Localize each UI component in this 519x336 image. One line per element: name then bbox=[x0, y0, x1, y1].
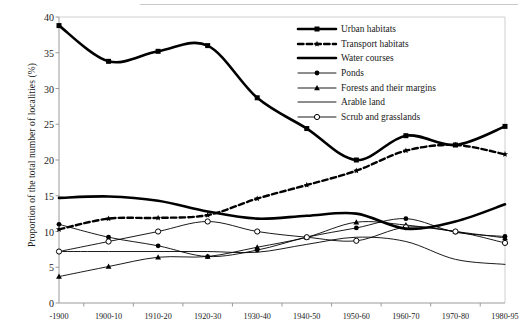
series-urban-habitats-marker bbox=[403, 133, 408, 138]
legend-transport-habitats-marker bbox=[314, 41, 320, 47]
legend-label-forests-and-their-margins: Forests and their margins bbox=[338, 83, 436, 93]
series-line-water-courses bbox=[59, 196, 505, 228]
y-tick-25: 25 bbox=[32, 119, 54, 130]
series-line-arable-land bbox=[59, 237, 505, 264]
y-tick-35: 35 bbox=[32, 47, 54, 58]
series-ponds-marker bbox=[354, 226, 359, 231]
legend-label-arable-land: Arable land bbox=[338, 97, 385, 107]
series-scrub-and-grasslands-marker bbox=[255, 229, 260, 234]
series-urban-habitats bbox=[57, 23, 508, 162]
x-axis-tick-labels: -19001900-101910-201920-301930-401940-50… bbox=[0, 312, 518, 332]
y-axis-tick-labels: 0510152025303540 bbox=[30, 0, 54, 336]
y-tick-20: 20 bbox=[32, 155, 54, 166]
series-scrub-and-grasslands-marker bbox=[304, 235, 309, 240]
series-scrub-and-grasslands-marker bbox=[453, 229, 458, 234]
x-tick-1960-70: 1960-70 bbox=[392, 312, 419, 321]
legend-key-arable-land bbox=[296, 96, 338, 108]
legend-label-water-courses: Water courses bbox=[338, 53, 394, 63]
legend-key-scrub-and-grasslands bbox=[296, 111, 338, 123]
x-tick-1930-40: 1930-40 bbox=[244, 312, 271, 321]
series-urban-habitats-marker bbox=[304, 126, 309, 131]
legend-item-ponds[interactable]: Ponds bbox=[296, 66, 436, 81]
series-urban-habitats-marker bbox=[106, 59, 111, 64]
series-transport-habitats-marker bbox=[155, 215, 161, 221]
y-tick-10: 10 bbox=[32, 226, 54, 237]
x-tick-1910-20: 1910-20 bbox=[144, 312, 171, 321]
legend-item-arable-land[interactable]: Arable land bbox=[296, 95, 436, 110]
y-tick-15: 15 bbox=[32, 190, 54, 201]
series-water-courses bbox=[59, 196, 505, 228]
top-divider-rule bbox=[140, 4, 518, 5]
series-scrub-and-grasslands-marker bbox=[502, 240, 507, 245]
series-scrub-and-grasslands-marker bbox=[205, 219, 210, 224]
series-ponds-marker bbox=[156, 243, 161, 248]
series-urban-habitats-marker bbox=[205, 43, 210, 48]
series-urban-habitats-marker bbox=[156, 49, 161, 54]
x-tick-1970-80: 1970-80 bbox=[442, 312, 469, 321]
legend-ponds-marker bbox=[315, 71, 320, 76]
legend-key-urban-habitats bbox=[296, 23, 338, 35]
legend-item-water-courses[interactable]: Water courses bbox=[296, 51, 436, 66]
legend-label-ponds: Ponds bbox=[338, 68, 364, 78]
legend-item-urban-habitats[interactable]: Urban habitats bbox=[296, 22, 436, 37]
series-ponds bbox=[57, 216, 508, 259]
y-tick-40: 40 bbox=[32, 12, 54, 23]
legend-scrub-and-grasslands-marker bbox=[314, 114, 319, 119]
legend-urban-habitats-marker bbox=[315, 27, 320, 32]
series-scrub-and-grasslands-marker bbox=[156, 229, 161, 234]
legend-label-urban-habitats: Urban habitats bbox=[338, 24, 396, 34]
series-transport-habitats-marker bbox=[106, 215, 112, 221]
series-arable-land bbox=[59, 237, 505, 264]
legend-item-transport-habitats[interactable]: Transport habitats bbox=[296, 37, 436, 52]
legend-key-water-courses bbox=[296, 52, 338, 64]
series-ponds-marker bbox=[57, 222, 62, 227]
legend-key-forests-and-their-margins bbox=[296, 82, 338, 94]
series-ponds-marker bbox=[403, 216, 408, 221]
series-urban-habitats-marker bbox=[453, 142, 458, 147]
series-urban-habitats-marker bbox=[503, 124, 508, 129]
series-line-urban-habitats bbox=[59, 26, 505, 160]
series-transport-habitats-marker bbox=[353, 168, 359, 174]
x-tick-1940-50: 1940-50 bbox=[293, 312, 320, 321]
series-urban-habitats-marker bbox=[255, 95, 260, 100]
series-scrub-and-grasslands-marker bbox=[106, 239, 111, 244]
legend-item-forests-and-their-margins[interactable]: Forests and their margins bbox=[296, 80, 436, 95]
legend-key-transport-habitats bbox=[296, 38, 338, 50]
x-tick-1900-10: 1900-10 bbox=[95, 312, 122, 321]
x-tick--1900: -1900 bbox=[49, 312, 68, 321]
legend-key-ponds bbox=[296, 67, 338, 79]
series-scrub-and-grasslands-marker bbox=[354, 238, 359, 243]
y-tick-5: 5 bbox=[32, 262, 54, 273]
x-tick-1980-95: 1980-95 bbox=[491, 312, 518, 321]
series-urban-habitats-marker bbox=[57, 23, 62, 28]
legend-label-scrub-and-grasslands: Scrub and grasslands bbox=[338, 112, 420, 122]
series-urban-habitats-marker bbox=[354, 158, 359, 163]
x-tick-1920-30: 1920-30 bbox=[194, 312, 221, 321]
x-tick-1950-60: 1950-60 bbox=[343, 312, 370, 321]
y-tick-0: 0 bbox=[32, 298, 54, 309]
y-tick-30: 30 bbox=[32, 83, 54, 94]
series-transport-habitats-marker bbox=[403, 148, 409, 154]
legend-item-scrub-and-grasslands[interactable]: Scrub and grasslands bbox=[296, 110, 436, 125]
legend-label-transport-habitats: Transport habitats bbox=[338, 39, 409, 49]
series-scrub-and-grasslands-marker bbox=[56, 249, 61, 254]
series-transport-habitats-marker bbox=[304, 182, 310, 188]
chart-legend: Urban habitatsTransport habitatsWater co… bbox=[296, 22, 436, 124]
